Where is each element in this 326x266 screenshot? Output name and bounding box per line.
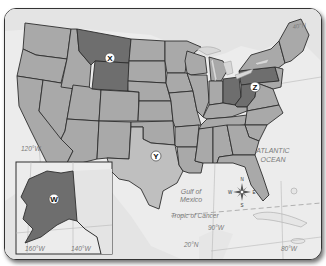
atlantic-ocean-label-2: OCEAN (261, 156, 287, 163)
map-frame: 160°W 140°W 120°W 40°N ATLANTIC OCEAN Gu… (4, 8, 322, 260)
longitude-label-120: 120°W (21, 145, 41, 152)
svg-text:Y: Y (153, 152, 159, 161)
compass-south: S (240, 203, 243, 208)
marker-x: X (105, 53, 115, 63)
longitude-label-160: 160°W (25, 245, 45, 252)
alaska-inset: 160°W 140°W (16, 162, 112, 254)
marker-y: Y (151, 151, 161, 161)
svg-text:X: X (107, 54, 113, 63)
gulf-of-mexico-label-2: Mexico (180, 196, 202, 203)
state-wyoming (92, 61, 129, 91)
us-map: 160°W 140°W 120°W 40°N ATLANTIC OCEAN Gu… (5, 9, 321, 259)
atlantic-ocean-label: ATLANTIC (255, 147, 290, 154)
svg-text:W: W (50, 195, 58, 204)
island (291, 188, 297, 194)
longitude-label-140: 140°W (71, 245, 91, 252)
gulf-of-mexico-label: Gulf of (181, 188, 203, 195)
compass-north: N (240, 177, 243, 182)
marker-z: Z (250, 82, 260, 92)
longitude-label-80: 80°W (281, 245, 298, 252)
svg-text:Z: Z (253, 83, 258, 92)
longitude-label-90: 90°W (208, 224, 225, 231)
marker-w: W (49, 194, 59, 204)
latitude-label-20: 20°N (183, 241, 199, 248)
compass-east: E (252, 190, 255, 195)
tropic-of-cancer-label: Tropic of Cancer (171, 212, 219, 220)
